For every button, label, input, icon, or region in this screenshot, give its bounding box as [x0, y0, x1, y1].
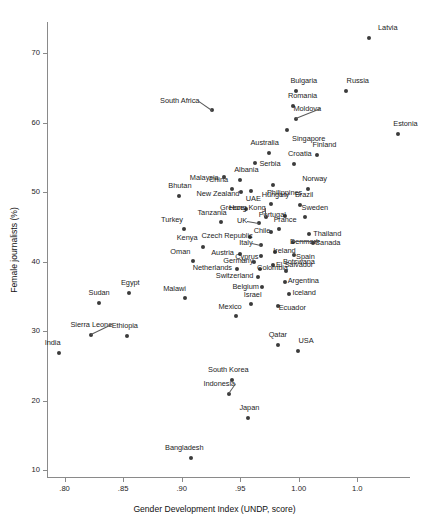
y-axis-title: Female journalists (%)	[9, 207, 19, 292]
point-label: Kenya	[177, 234, 198, 242]
data-point	[182, 227, 186, 231]
point-label: Chile	[254, 227, 271, 235]
data-point	[267, 151, 271, 155]
x-tick-label: 1.00	[285, 484, 313, 493]
data-point	[276, 343, 280, 347]
x-tick-mark	[240, 478, 241, 482]
data-point	[269, 202, 273, 206]
data-point	[277, 227, 281, 231]
y-tick-mark	[43, 331, 47, 332]
x-tick-mark	[299, 478, 300, 482]
point-label: Estonia	[393, 120, 417, 128]
data-point	[246, 416, 250, 420]
y-tick-mark	[43, 401, 47, 402]
data-point	[189, 456, 193, 460]
data-point	[97, 301, 101, 305]
point-label: Sweden	[302, 204, 328, 212]
point-label: Japan	[239, 404, 259, 412]
point-label: USA	[299, 337, 314, 345]
data-point	[284, 269, 288, 273]
y-tick-label: 40	[25, 257, 40, 266]
point-label: Egypt	[121, 279, 140, 287]
point-label: Albania	[234, 166, 258, 174]
data-point	[303, 215, 307, 219]
point-label: Serbia	[259, 160, 280, 168]
point-label: Turkey	[161, 216, 183, 224]
data-point	[127, 291, 131, 295]
data-point	[249, 189, 253, 193]
point-label: Russia	[347, 77, 369, 85]
x-tick-label: 1.0	[343, 484, 371, 493]
scatter-plot: 10203040506070 .80.85.90.951.001.0 Latvi…	[0, 0, 429, 528]
y-tick-mark	[43, 123, 47, 124]
point-label: Latvia	[378, 24, 397, 32]
point-label: Bulgaria	[290, 77, 317, 85]
data-point	[201, 245, 205, 249]
data-point	[177, 194, 181, 198]
x-axis-title: Gender Development Index (UNDP, score)	[0, 504, 429, 514]
x-tick-mark	[123, 478, 124, 482]
point-label: UK	[237, 217, 247, 225]
y-tick-mark	[43, 262, 47, 263]
point-label: Ethiopia	[112, 322, 138, 330]
point-label: Qatar	[269, 331, 287, 339]
data-point	[367, 36, 371, 40]
data-point	[292, 162, 296, 166]
point-label: South Africa	[160, 97, 199, 105]
point-label: Tanzania	[197, 209, 226, 217]
point-label: Romania	[288, 92, 317, 100]
y-tick-label: 60	[25, 118, 40, 127]
point-label: Malawi	[163, 285, 186, 293]
leader-line	[199, 101, 213, 111]
point-label: Australia	[250, 139, 278, 147]
x-tick-mark	[182, 478, 183, 482]
data-point	[125, 334, 129, 338]
y-tick-label: 10	[25, 465, 40, 474]
x-tick-label: .85	[109, 484, 137, 493]
point-label: Brazil	[295, 191, 313, 199]
point-label: Oman	[170, 248, 190, 256]
data-point	[249, 302, 253, 306]
point-label: Canada	[315, 239, 341, 247]
point-label: Israel	[244, 291, 262, 299]
data-point	[57, 351, 61, 355]
x-tick-label: .90	[168, 484, 196, 493]
point-label: Croatia	[288, 150, 311, 158]
data-point	[260, 285, 264, 289]
point-label: Sierra Leone	[70, 321, 112, 329]
y-tick-label: 50	[25, 187, 40, 196]
data-point	[283, 280, 287, 284]
point-label: Ecuador	[279, 304, 306, 312]
point-label: Italy	[239, 239, 252, 247]
data-point	[219, 220, 223, 224]
data-point	[256, 275, 260, 279]
data-point	[296, 349, 300, 353]
point-label: India	[45, 339, 61, 347]
y-tick-mark	[43, 192, 47, 193]
data-point	[315, 153, 319, 157]
data-point	[396, 132, 400, 136]
y-axis-line	[47, 22, 48, 477]
data-point	[239, 190, 243, 194]
data-point	[287, 292, 291, 296]
point-label: Mexico	[219, 303, 242, 311]
point-label: Botswana	[283, 258, 315, 266]
data-point	[238, 178, 242, 182]
point-label: South Korea	[208, 366, 249, 374]
point-label: New Zealand	[196, 190, 239, 198]
x-tick-label: .95	[226, 484, 254, 493]
point-label: Iceland	[292, 289, 315, 297]
point-label: Norway	[302, 175, 327, 183]
point-label: Bhutan	[168, 182, 191, 190]
data-point	[259, 254, 263, 258]
y-tick-label: 20	[25, 396, 40, 405]
point-label: Switzerland	[216, 272, 254, 280]
y-tick-mark	[43, 470, 47, 471]
x-tick-mark	[357, 478, 358, 482]
y-tick-mark	[43, 53, 47, 54]
point-label: Sudan	[89, 289, 110, 297]
y-tick-label: 70	[25, 48, 40, 57]
x-tick-label: .80	[51, 484, 79, 493]
point-label: Hong Kong	[229, 204, 266, 212]
point-label: Argentina	[288, 277, 319, 285]
